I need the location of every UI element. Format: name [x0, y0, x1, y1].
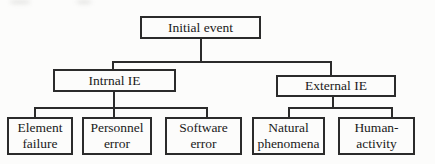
- node-label: Initial event: [168, 20, 233, 36]
- node-personnel-error: Personnel error: [82, 117, 152, 155]
- connector-drop-element-failure: [34, 107, 36, 117]
- connector-drop-software-error: [206, 107, 208, 117]
- node-element-failure: Element failure: [7, 117, 73, 155]
- node-software-error: Software error: [165, 117, 242, 155]
- connector-internal-stem: [113, 92, 115, 117]
- node-label: Software error: [169, 120, 238, 152]
- node-human-activity: Human-activity: [338, 117, 415, 155]
- connector-root-stem: [200, 39, 202, 63]
- node-natural-phenomena: Natural phenomena: [252, 117, 325, 155]
- event-tree-diagram: Initial event Intrnal IE External IE Ele…: [0, 0, 435, 164]
- connector-drop-human-activity: [391, 107, 393, 117]
- node-label: Human-activity: [342, 120, 411, 152]
- node-external-ie: External IE: [276, 75, 396, 97]
- scan-artifact-smudge: [9, 0, 31, 4]
- node-internal-ie: Intrnal IE: [53, 69, 176, 92]
- connector-internal-bus: [34, 107, 208, 109]
- node-label: External IE: [305, 78, 367, 94]
- connector-level2-bus: [112, 61, 332, 63]
- node-label: Natural phenomena: [256, 120, 321, 152]
- connector-drop-natural-phenomena: [288, 107, 290, 117]
- node-label: Element failure: [11, 120, 69, 152]
- connector-external-bus: [288, 107, 393, 109]
- node-label: Personnel error: [86, 120, 148, 152]
- node-label: Intrnal IE: [88, 73, 140, 89]
- node-initial-event: Initial event: [140, 16, 261, 39]
- scan-artifact-smudge: [76, 0, 92, 4]
